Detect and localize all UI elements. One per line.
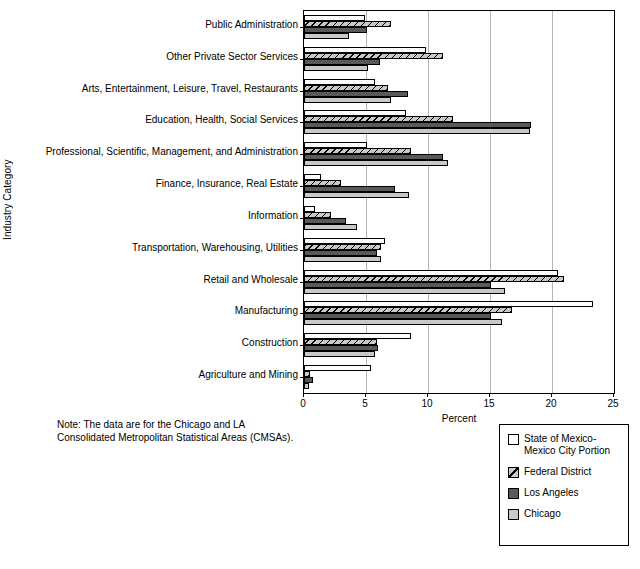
bar-group (304, 75, 614, 107)
category-label: Construction (13, 337, 303, 348)
legend-swatch-icon (508, 434, 519, 445)
category-label: Transportation, Warehousing, Utilities (13, 242, 303, 253)
bar (304, 128, 530, 134)
y-tick (300, 250, 304, 251)
bar (304, 383, 309, 389)
y-tick (300, 313, 304, 314)
x-axis-title: Percent (303, 413, 615, 424)
category-label: Finance, Insurance, Real Estate (13, 178, 303, 189)
bar-group (304, 361, 614, 393)
bar (304, 288, 505, 294)
x-axis: 0510152025 (303, 393, 615, 415)
bar-group (304, 107, 614, 139)
y-tick (300, 122, 304, 123)
bar (304, 351, 375, 357)
category-label: Retail and Wholesale (13, 274, 303, 285)
bar (304, 256, 381, 262)
legend-swatch-icon (508, 467, 519, 478)
x-tick-label: 25 (607, 398, 618, 409)
x-tick (365, 393, 366, 397)
x-tick-label: 15 (483, 398, 494, 409)
y-tick (300, 154, 304, 155)
category-label: Professional, Scientific, Management, an… (13, 146, 303, 157)
legend-entry: Chicago (508, 508, 622, 520)
plot-area (303, 10, 615, 394)
x-tick-label: 20 (545, 398, 556, 409)
category-label: Public Administration (13, 19, 303, 30)
legend-swatch-icon (508, 488, 519, 499)
legend-swatch-icon (508, 509, 519, 520)
y-tick (300, 377, 304, 378)
bar (304, 365, 371, 371)
bar-group (304, 11, 614, 43)
legend-entry: State of Mexico- Mexico City Portion (508, 433, 622, 457)
bar (304, 224, 357, 230)
legend-label: Federal District (524, 466, 591, 478)
y-tick (300, 345, 304, 346)
bar (304, 97, 391, 103)
bar (304, 65, 368, 71)
category-label: Information (13, 210, 303, 221)
x-tick (613, 393, 614, 397)
bar (304, 33, 349, 39)
bar-group (304, 170, 614, 202)
bar (304, 192, 409, 198)
bar (304, 160, 448, 166)
bar-group (304, 298, 614, 330)
category-label: Manufacturing (13, 305, 303, 316)
legend-entry: Federal District (508, 466, 622, 478)
y-tick (300, 282, 304, 283)
x-tick (551, 393, 552, 397)
legend-entry: Los Angeles (508, 487, 622, 499)
category-label: Arts, Entertainment, Leisure, Travel, Re… (13, 83, 303, 94)
x-tick-label: 10 (421, 398, 432, 409)
bar-group (304, 202, 614, 234)
chart-legend: State of Mexico- Mexico City PortionFede… (499, 424, 629, 546)
bar (304, 319, 502, 325)
y-tick (300, 59, 304, 60)
category-label: Other Private Sector Services (13, 51, 303, 62)
bar-group (304, 43, 614, 75)
category-label: Agriculture and Mining (13, 369, 303, 380)
y-tick (300, 186, 304, 187)
bar-group (304, 266, 614, 298)
chart-note: Note: The data are for the Chicago and L… (57, 418, 293, 444)
y-tick (300, 27, 304, 28)
x-tick (303, 393, 304, 397)
category-label-column: Public AdministrationOther Private Secto… (0, 10, 303, 392)
x-tick-label: 0 (300, 398, 306, 409)
x-tick (489, 393, 490, 397)
x-tick (427, 393, 428, 397)
x-tick-label: 5 (362, 398, 368, 409)
y-tick (300, 218, 304, 219)
bar-group (304, 138, 614, 170)
legend-label: Los Angeles (524, 487, 579, 499)
category-label: Education, Health, Social Services (13, 114, 303, 125)
bar-group (304, 234, 614, 266)
y-tick (300, 91, 304, 92)
legend-label: Chicago (524, 508, 561, 520)
legend-label: State of Mexico- Mexico City Portion (524, 433, 610, 457)
bar-group (304, 329, 614, 361)
